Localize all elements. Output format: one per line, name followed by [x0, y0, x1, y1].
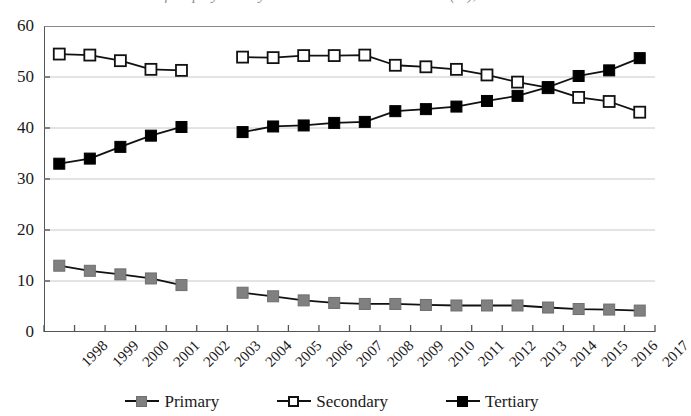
legend-label: Tertiary — [485, 393, 539, 410]
data-point-tertiary — [268, 121, 279, 132]
data-point-primary — [451, 300, 462, 311]
data-point-tertiary — [604, 65, 615, 76]
x-axis-tick-label: 2005 — [293, 338, 325, 370]
x-axis-tick-label: 2007 — [354, 338, 386, 370]
gridlines — [44, 77, 655, 281]
legend-item-tertiary[interactable]: Tertiary — [446, 393, 539, 410]
data-point-primary — [115, 269, 126, 280]
series-markers — [54, 49, 645, 317]
data-point-tertiary — [176, 121, 187, 132]
data-point-secondary — [512, 77, 523, 88]
legend-item-secondary[interactable]: Secondary — [277, 393, 388, 410]
x-axis-tick-label: 1999 — [110, 338, 142, 370]
data-point-secondary — [145, 64, 156, 75]
data-point-tertiary — [390, 106, 401, 117]
data-point-tertiary — [512, 90, 523, 101]
data-point-primary — [84, 265, 95, 276]
data-point-primary — [268, 291, 279, 302]
data-point-tertiary — [481, 95, 492, 106]
legend-marker-icon — [446, 394, 480, 408]
legend-marker-icon — [277, 394, 311, 408]
data-point-tertiary — [84, 153, 95, 164]
data-point-secondary — [84, 50, 95, 61]
data-point-secondary — [268, 52, 279, 63]
data-point-primary — [359, 298, 370, 309]
data-point-secondary — [176, 65, 187, 76]
x-axis-labels: 1998199920002001200220032004200520062007… — [0, 336, 664, 384]
x-axis-tick-label: 2002 — [201, 338, 233, 370]
data-point-primary — [237, 287, 248, 298]
x-axis-tick-label: 2003 — [232, 338, 264, 370]
data-point-tertiary — [145, 130, 156, 141]
x-axis-tick-label: 2009 — [415, 338, 447, 370]
data-point-primary — [512, 300, 523, 311]
x-axis-tick-label: 2004 — [262, 338, 294, 370]
y-axis-ticks — [44, 77, 50, 281]
legend-swatch — [136, 396, 147, 407]
data-point-secondary — [359, 50, 370, 61]
legend-swatch — [288, 396, 299, 407]
data-point-tertiary — [634, 53, 645, 64]
data-point-tertiary — [298, 120, 309, 131]
legend-label: Primary — [164, 393, 219, 410]
x-axis-tick-label: 2017 — [660, 338, 691, 370]
data-point-secondary — [54, 49, 65, 60]
x-axis-tick-label: 2010 — [446, 338, 478, 370]
data-point-secondary — [329, 50, 340, 61]
data-point-tertiary — [420, 104, 431, 115]
data-point-primary — [54, 260, 65, 271]
data-point-primary — [390, 298, 401, 309]
data-point-primary — [573, 304, 584, 315]
data-point-primary — [176, 280, 187, 291]
data-point-primary — [634, 305, 645, 316]
data-point-tertiary — [237, 127, 248, 138]
data-point-primary — [604, 304, 615, 315]
x-axis-tick-label: 2014 — [568, 338, 600, 370]
data-point-secondary — [634, 107, 645, 118]
legend-item-primary[interactable]: Primary — [125, 393, 219, 410]
data-point-tertiary — [359, 116, 370, 127]
x-axis-tick-label: 1998 — [79, 338, 111, 370]
x-axis-tick-label: 2016 — [629, 338, 661, 370]
x-axis-tick-label: 2001 — [171, 338, 203, 370]
data-point-tertiary — [115, 141, 126, 152]
legend-marker-icon — [125, 394, 159, 408]
x-axis-ticks — [44, 325, 655, 332]
x-axis-tick-label: 2008 — [385, 338, 417, 370]
x-axis-tick-label: 2015 — [598, 338, 630, 370]
x-axis-tick-label: 2000 — [140, 338, 172, 370]
legend-label: Secondary — [316, 393, 388, 410]
data-point-tertiary — [451, 101, 462, 112]
data-point-secondary — [390, 60, 401, 71]
x-axis-tick-label: 2006 — [323, 338, 355, 370]
data-point-secondary — [298, 50, 309, 61]
x-axis-tick-label: 2011 — [476, 338, 507, 369]
data-point-secondary — [481, 69, 492, 80]
data-point-secondary — [237, 52, 248, 63]
data-point-primary — [543, 302, 554, 313]
data-point-secondary — [573, 92, 584, 103]
data-point-tertiary — [573, 70, 584, 81]
data-point-primary — [298, 295, 309, 306]
x-axis-tick-label: 2012 — [507, 338, 539, 370]
data-point-primary — [329, 297, 340, 308]
data-point-tertiary — [329, 117, 340, 128]
legend-swatch — [457, 396, 468, 407]
data-point-secondary — [604, 96, 615, 107]
x-axis-tick-label: 2013 — [537, 338, 569, 370]
data-point-tertiary — [543, 82, 554, 93]
data-point-primary — [145, 273, 156, 284]
chart-legend: PrimarySecondaryTertiary — [0, 388, 664, 414]
data-point-primary — [481, 300, 492, 311]
data-point-secondary — [451, 64, 462, 75]
data-point-secondary — [420, 61, 431, 72]
data-point-secondary — [115, 55, 126, 66]
data-point-primary — [420, 299, 431, 310]
data-point-tertiary — [54, 158, 65, 169]
